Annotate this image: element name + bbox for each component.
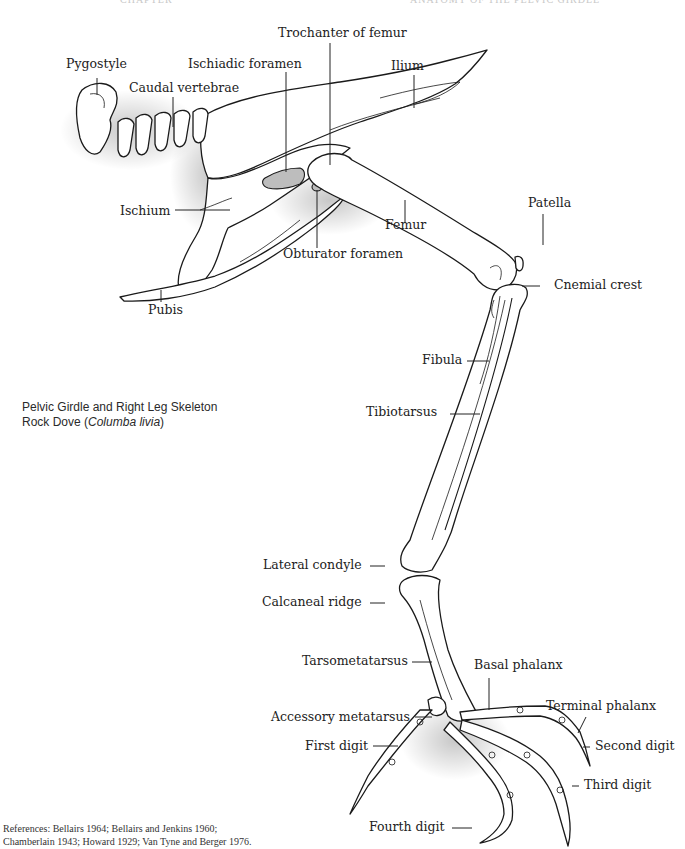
label-femur: Femur — [385, 219, 426, 232]
label-cnemial-crest: Cnemial crest — [554, 279, 642, 292]
label-calcaneal-ridge: Calcaneal ridge — [262, 596, 362, 609]
caption-species: Rock Dove (Columba livia) — [22, 415, 217, 430]
accessory-metatarsus-bone — [428, 697, 446, 715]
label-fibula: Fibula — [422, 354, 462, 367]
label-ischium: Ischium — [120, 205, 170, 218]
figure-caption: Pelvic Girdle and Right Leg Skeleton Roc… — [22, 400, 217, 430]
label-accessory-metatarsus: Accessory metatarsus — [271, 711, 410, 724]
label-basal-phalanx: Basal phalanx — [474, 659, 563, 672]
label-pubis: Pubis — [148, 304, 183, 317]
label-caudal-vertebrae: Caudal vertebrae — [129, 82, 239, 95]
label-terminal-phalanx: Terminal phalanx — [546, 700, 656, 713]
label-tibiotarsus: Tibiotarsus — [366, 406, 437, 419]
label-trochanter-of-femur: Trochanter of femur — [278, 27, 407, 40]
label-ischiadic-foramen: Ischiadic foramen — [188, 58, 302, 71]
tarsometatarsus — [400, 576, 479, 722]
references-line-1: References: Bellairs 1964; Bellairs and … — [3, 822, 251, 835]
skeleton-diagram: CHAPTER ANATOMY OF THE PELVIC GIRDLE — [0, 0, 685, 849]
tibiotarsus-bone — [401, 284, 528, 572]
label-ilium: Ilium — [391, 60, 424, 73]
label-pygostyle: Pygostyle — [66, 58, 127, 71]
label-fourth-digit: Fourth digit — [369, 821, 445, 834]
patella-bone — [515, 256, 523, 270]
label-patella: Patella — [528, 197, 571, 210]
label-first-digit: First digit — [305, 740, 368, 753]
caption-title: Pelvic Girdle and Right Leg Skeleton — [22, 400, 217, 415]
label-third-digit: Third digit — [584, 779, 651, 792]
species-name: Columba livia — [88, 415, 160, 429]
tibiotarsus — [401, 284, 528, 572]
label-lateral-condyle: Lateral condyle — [263, 559, 362, 572]
references: References: Bellairs 1964; Bellairs and … — [3, 822, 251, 848]
label-second-digit: Second digit — [595, 740, 675, 753]
label-tarsometatarsus: Tarsometatarsus — [302, 655, 408, 668]
label-obturator-foramen: Obturator foramen — [283, 248, 403, 261]
references-line-2: Chamberlain 1943; Howard 1929; Van Tyne … — [3, 835, 251, 848]
